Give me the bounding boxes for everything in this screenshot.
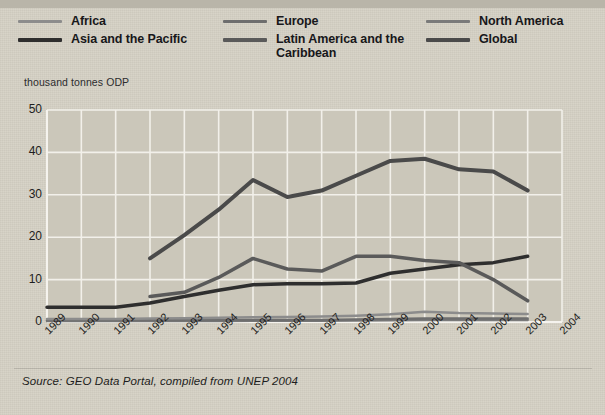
legend-item-asia-and-the-pacific: Asia and the Pacific <box>18 32 208 46</box>
legend-label-africa: Africa <box>71 14 106 28</box>
legend-label-latin-america-and-the-caribbean: Latin America and the Caribbean <box>276 32 404 60</box>
y-tick-label: 10 <box>8 272 42 286</box>
legend-swatch-europe <box>223 20 267 23</box>
legend-label-global: Global <box>479 32 517 46</box>
y-tick-label: 20 <box>8 229 42 243</box>
legend-swatch-north-america <box>426 20 470 23</box>
legend-item-europe: Europe <box>223 14 413 28</box>
legend-column-1: Africa Asia and the Pacific <box>18 14 208 50</box>
y-tick-label: 0 <box>8 314 42 328</box>
legend-label-north-america: North America <box>479 14 563 28</box>
legend-label-asia-and-the-pacific: Asia and the Pacific <box>71 32 187 46</box>
page-top-band <box>0 0 605 8</box>
figure-page: Africa Asia and the Pacific Europe Latin… <box>0 0 605 415</box>
y-tick-label: 50 <box>8 102 42 116</box>
chart-legend: Africa Asia and the Pacific Europe Latin… <box>18 14 593 70</box>
legend-swatch-global <box>426 38 470 42</box>
y-tick-label: 40 <box>8 144 42 158</box>
legend-item-latin-america-and-the-caribbean: Latin America and the Caribbean <box>223 32 413 60</box>
legend-swatch-asia-and-the-pacific <box>18 38 62 42</box>
source-note: Source: GEO Data Portal, compiled from U… <box>22 375 298 387</box>
legend-item-global: Global <box>426 32 605 46</box>
y-axis-unit-label: thousand tonnes ODP <box>24 76 129 88</box>
y-tick-label: 30 <box>8 187 42 201</box>
footer-divider <box>14 368 592 369</box>
legend-column-3: North America Global <box>426 14 605 50</box>
legend-swatch-africa <box>18 20 62 23</box>
x-tick-label: 1989 <box>42 311 68 337</box>
plot-area-background <box>47 110 562 322</box>
legend-item-north-america: North America <box>426 14 605 28</box>
legend-item-africa: Africa <box>18 14 208 28</box>
legend-column-2: Europe Latin America and the Caribbean <box>223 14 413 64</box>
legend-label-europe: Europe <box>276 14 318 28</box>
legend-swatch-latin-america-and-the-caribbean <box>223 38 267 42</box>
